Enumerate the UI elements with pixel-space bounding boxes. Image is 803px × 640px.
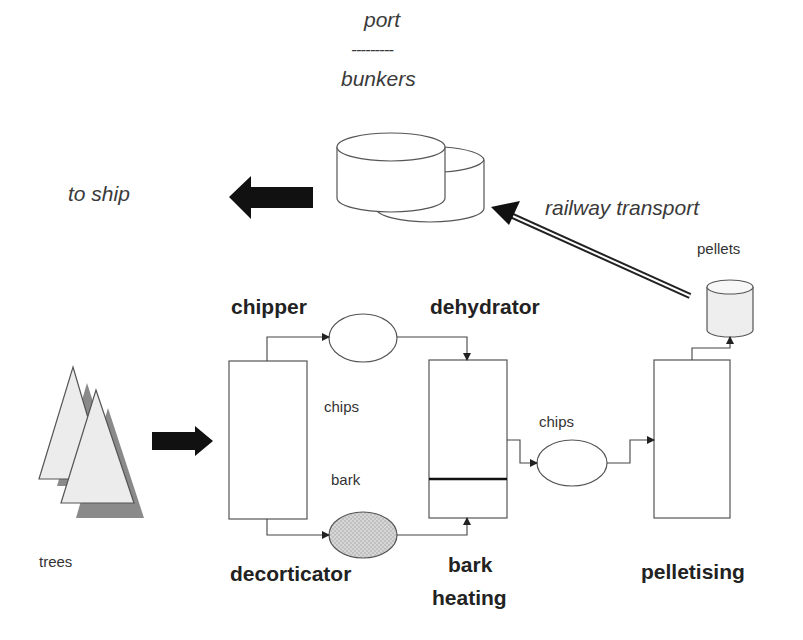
bunker-front-cylinder: [337, 133, 445, 212]
port-bunkers: [337, 133, 484, 222]
bark-heating-label-line1: bark: [448, 553, 492, 577]
chips-buffer-2-ellipse: [537, 440, 607, 486]
chips-buffer-ellipse: [329, 314, 397, 362]
bark-buffer-ellipse: [329, 512, 397, 558]
pellets-label: pellets: [697, 240, 740, 257]
chips-label: chips: [324, 398, 359, 415]
dehydrator-box: [429, 360, 507, 518]
port-label: port: [364, 8, 400, 32]
chipper-to-chips-line: [267, 337, 329, 361]
to-ship-arrow: [229, 176, 313, 219]
to-ship-label: to ship: [68, 182, 130, 206]
process-diagram: [0, 0, 803, 640]
port-separator: ---------: [351, 40, 393, 60]
decorticator-label: decorticator: [230, 562, 351, 586]
pelletising-label: pelletising: [641, 560, 745, 584]
bunkers-label: bunkers: [341, 67, 416, 91]
pelletising-box: [654, 360, 730, 518]
pellets-cylinder: [707, 280, 753, 337]
chips-2-label: chips: [539, 413, 574, 430]
railway-transport-label: railway transport: [545, 196, 699, 220]
trees-label: trees: [39, 553, 72, 570]
chipper-label: chipper: [231, 295, 307, 319]
trees-to-chipper-arrow: [152, 426, 213, 456]
chipper-decorticator-box: [229, 361, 307, 519]
chips-to-dehydrator-line: [397, 337, 467, 360]
bark-label: bark: [331, 471, 360, 488]
trees-icon: [39, 367, 144, 518]
dehydrator-to-chips-line: [507, 440, 537, 463]
pelletising-to-pellets-line: [692, 337, 730, 360]
bark-heating-label-line2: heating: [432, 586, 507, 610]
decorticator-to-bark-line: [267, 519, 329, 535]
bark-to-heating-line: [397, 518, 467, 535]
dehydrator-label: dehydrator: [430, 295, 540, 319]
chips-to-pelletising-line: [607, 440, 654, 463]
